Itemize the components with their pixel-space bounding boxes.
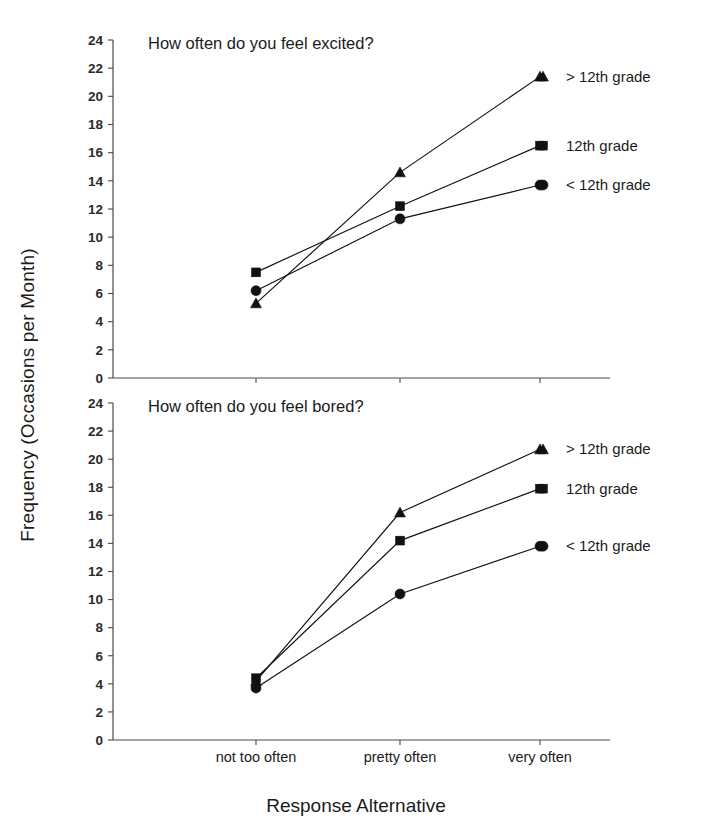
data-point-triangle <box>395 167 406 177</box>
series-line-2 <box>256 185 540 291</box>
series-line-2 <box>256 546 540 688</box>
legend-label-1: 12th grade <box>566 137 638 154</box>
y-tick-label: 24 <box>88 33 104 48</box>
y-tick-label: 12 <box>88 564 103 579</box>
y-tick-label: 12 <box>88 202 103 217</box>
data-point-square <box>252 268 261 277</box>
y-tick-label: 6 <box>95 649 103 664</box>
y-tick-label: 0 <box>95 371 103 386</box>
legend-label-2: < 12th grade <box>566 176 651 193</box>
y-tick-label: 8 <box>95 258 103 273</box>
data-point-square <box>539 141 548 150</box>
data-point-circle <box>538 180 548 190</box>
y-tick-label: 10 <box>88 230 103 245</box>
y-tick-label: 2 <box>95 343 103 358</box>
y-tick-label: 6 <box>95 286 103 301</box>
chart-panel-top: 024681012141618202224How often do you fe… <box>88 33 651 386</box>
y-tick-label: 16 <box>88 145 104 160</box>
y-tick-label: 0 <box>95 733 103 748</box>
y-tick-label: 4 <box>95 314 103 329</box>
y-tick-label: 2 <box>95 705 103 720</box>
chart-canvas: 024681012141618202224How often do you fe… <box>0 0 718 790</box>
y-tick-label: 4 <box>95 677 103 692</box>
y-tick-label: 10 <box>88 592 103 607</box>
y-tick-label: 14 <box>88 536 104 551</box>
data-point-square <box>539 484 548 493</box>
y-tick-label: 24 <box>88 396 104 411</box>
legend-label-0: > 12th grade <box>566 68 651 85</box>
x-axis-label: Response Alternative <box>56 795 656 817</box>
series-line-0 <box>256 449 540 681</box>
y-tick-label: 22 <box>88 61 103 76</box>
data-point-square <box>396 536 405 545</box>
data-point-triangle <box>395 507 406 517</box>
data-point-square <box>396 202 405 211</box>
panel-title: How often do you feel excited? <box>148 34 374 52</box>
x-tick-label: pretty often <box>364 749 437 765</box>
legend-label-2: < 12th grade <box>566 537 651 554</box>
figure-container: Frequency (Occasions per Month) 02468101… <box>0 0 718 839</box>
y-tick-label: 20 <box>88 89 103 104</box>
y-tick-label: 14 <box>88 174 104 189</box>
y-tick-label: 18 <box>88 117 104 132</box>
data-point-circle <box>395 589 405 599</box>
data-point-circle <box>538 541 548 551</box>
y-tick-label: 22 <box>88 424 103 439</box>
data-point-circle <box>251 683 261 693</box>
legend-label-1: 12th grade <box>566 480 638 497</box>
x-tick-label: not too often <box>216 749 297 765</box>
y-tick-label: 20 <box>88 452 103 467</box>
y-tick-label: 8 <box>95 620 103 635</box>
data-point-square <box>252 674 261 683</box>
y-tick-label: 16 <box>88 508 104 523</box>
data-point-circle <box>251 286 261 296</box>
y-tick-label: 18 <box>88 480 104 495</box>
chart-panel-bottom: 024681012141618202224not too oftenpretty… <box>88 396 651 765</box>
data-point-circle <box>395 214 405 224</box>
legend-label-0: > 12th grade <box>566 440 651 457</box>
x-tick-label: very often <box>508 749 572 765</box>
panel-title: How often do you feel bored? <box>148 397 364 415</box>
